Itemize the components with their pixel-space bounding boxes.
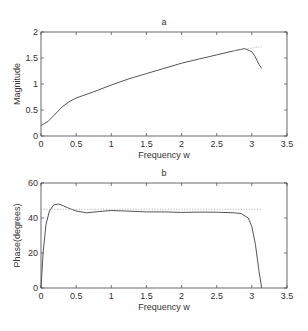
x-tick-label: 1 — [109, 139, 114, 149]
x-tick-label: 1.5 — [140, 291, 153, 301]
x-tick-label: 3.5 — [281, 139, 294, 149]
x-tick-label: 2 — [179, 291, 184, 301]
figure: 00.511.522.533.500.511.52aFrequency wMag… — [0, 0, 308, 331]
x-axis-label: Frequency w — [138, 302, 190, 312]
y-tick-label: 2 — [33, 27, 38, 37]
phase-plot: 00.511.522.533.50204060bFrequency wPhase… — [12, 168, 293, 312]
x-tick-label: 3.5 — [281, 291, 294, 301]
chart-title: b — [161, 168, 166, 178]
x-tick-label: 1 — [109, 291, 114, 301]
x-tick-label: 3 — [249, 291, 254, 301]
y-tick-label: 0.5 — [25, 105, 38, 115]
x-tick-label: 2.5 — [210, 291, 223, 301]
x-tick-label: 0 — [38, 291, 43, 301]
y-tick-label: 1.5 — [25, 53, 38, 63]
x-tick-label: 2 — [179, 139, 184, 149]
x-tick-label: 0 — [38, 139, 43, 149]
y-tick-label: 0 — [33, 131, 38, 141]
x-tick-label: 1.5 — [140, 139, 153, 149]
x-tick-label: 0.5 — [70, 291, 83, 301]
data-line — [41, 204, 262, 288]
y-tick-label: 40 — [28, 213, 38, 223]
x-tick-label: 0.5 — [70, 139, 83, 149]
y-tick-label: 1 — [33, 79, 38, 89]
axes-box — [41, 183, 287, 288]
y-tick-label: 0 — [33, 283, 38, 293]
magnitude-plot: 00.511.522.533.500.511.52aFrequency wMag… — [12, 17, 293, 160]
axes-box — [41, 32, 287, 136]
y-axis-label: Magnitude — [12, 63, 22, 105]
x-tick-label: 3 — [249, 139, 254, 149]
y-axis-label: Phase(degrees) — [12, 203, 22, 267]
data-line — [41, 49, 262, 126]
y-tick-label: 60 — [28, 178, 38, 188]
chart-title: a — [161, 17, 166, 27]
x-tick-label: 2.5 — [210, 139, 223, 149]
x-axis-label: Frequency w — [138, 150, 190, 160]
y-tick-label: 20 — [28, 248, 38, 258]
